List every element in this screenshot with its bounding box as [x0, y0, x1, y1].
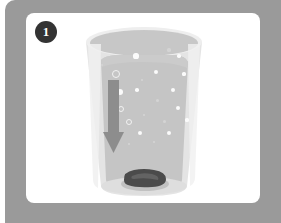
illustration-root: 1: [0, 0, 281, 223]
step-number-badge: 1: [35, 21, 57, 43]
arrow-layer: [74, 20, 214, 200]
illustration-panel: 1: [26, 13, 260, 203]
downward-arrow-icon: [103, 80, 124, 153]
glass-scene: [74, 20, 214, 200]
